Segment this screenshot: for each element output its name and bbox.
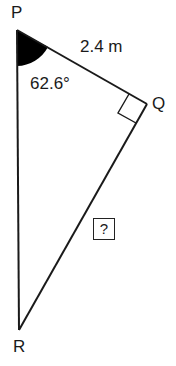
right-angle-marker — [118, 94, 136, 123]
side-qr — [19, 104, 147, 330]
angle-p-label: 62.6° — [30, 75, 70, 92]
side-pr — [17, 30, 19, 330]
vertex-label-q: Q — [152, 95, 165, 112]
vertex-label-p: P — [11, 4, 22, 21]
side-pq-length: 2.4 m — [80, 38, 123, 55]
unknown-side-box: ? — [93, 218, 115, 240]
angle-p-marker — [17, 30, 48, 66]
vertex-label-r: R — [13, 338, 25, 355]
